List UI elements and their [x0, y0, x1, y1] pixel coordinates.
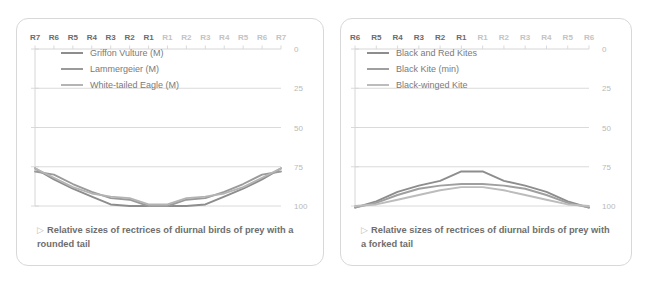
caption-forked-tail: ▷Relative sizes of rectrices of diurnal …	[361, 224, 617, 251]
caption-text: Relative sizes of rectrices of diurnal b…	[361, 225, 610, 248]
legend-color-swatch	[61, 68, 83, 71]
chart-panel-forked-tail: R6R5R4R3R2R1R1R2R3R4R5R6 Black and Red K…	[340, 18, 632, 266]
series-line	[35, 168, 281, 204]
chart-area-rounded-tail: R7R6R5R4R3R2R1R1R2R3R4R5R6R7 Griffon Vul…	[17, 19, 323, 209]
legend-item-label: Black Kite (min)	[396, 64, 459, 74]
y-axis-tick-label: 25	[602, 84, 611, 93]
legend-item[interactable]: Lammergeier (M)	[61, 61, 179, 77]
legend-forked-tail: Black and Red KitesBlack Kite (min)Black…	[367, 45, 477, 93]
y-axis-tick-label: 25	[294, 84, 303, 93]
chart-area-forked-tail: R6R5R4R3R2R1R1R2R3R4R5R6 Black and Red K…	[341, 19, 631, 209]
chart-panel-rounded-tail: R7R6R5R4R3R2R1R1R2R3R4R5R6R7 Griffon Vul…	[16, 18, 324, 266]
legend-item-label: Black and Red Kites	[396, 48, 477, 58]
legend-item[interactable]: Black-winged Kite	[367, 77, 477, 93]
legend-rounded-tail: Griffon Vulture (M)Lammergeier (M)White-…	[61, 45, 179, 93]
caption-rounded-tail: ▷Relative sizes of rectrices of diurnal …	[37, 224, 309, 251]
y-axis-tick-label: 50	[294, 123, 303, 132]
legend-item-label: White-tailed Eagle (M)	[90, 80, 179, 90]
legend-item[interactable]: Griffon Vulture (M)	[61, 45, 179, 61]
caption-bullet-icon: ▷	[37, 225, 44, 235]
legend-item[interactable]: White-tailed Eagle (M)	[61, 77, 179, 93]
legend-item-label: Lammergeier (M)	[90, 64, 159, 74]
y-axis-tick-label: 75	[294, 162, 303, 171]
y-axis-tick-label: 0	[294, 45, 298, 54]
legend-color-swatch	[367, 52, 389, 55]
legend-item-label: Black-winged Kite	[396, 80, 468, 90]
y-axis-tick-label: 0	[602, 45, 606, 54]
y-axis-tick-label: 100	[602, 202, 615, 211]
y-axis-tick-label: 100	[294, 202, 307, 211]
y-axis-tick-label: 50	[602, 123, 611, 132]
y-axis-tick-label: 75	[602, 162, 611, 171]
caption-text: Relative sizes of rectrices of diurnal b…	[37, 225, 293, 248]
legend-color-swatch	[367, 84, 389, 87]
series-line	[355, 187, 589, 206]
legend-color-swatch	[367, 68, 389, 71]
legend-item[interactable]: Black and Red Kites	[367, 45, 477, 61]
caption-bullet-icon: ▷	[361, 225, 368, 235]
legend-item[interactable]: Black Kite (min)	[367, 61, 477, 77]
legend-color-swatch	[61, 84, 83, 87]
figure-root: R7R6R5R4R3R2R1R1R2R3R4R5R6R7 Griffon Vul…	[0, 0, 648, 288]
legend-item-label: Griffon Vulture (M)	[90, 48, 164, 58]
legend-color-swatch	[61, 52, 83, 55]
